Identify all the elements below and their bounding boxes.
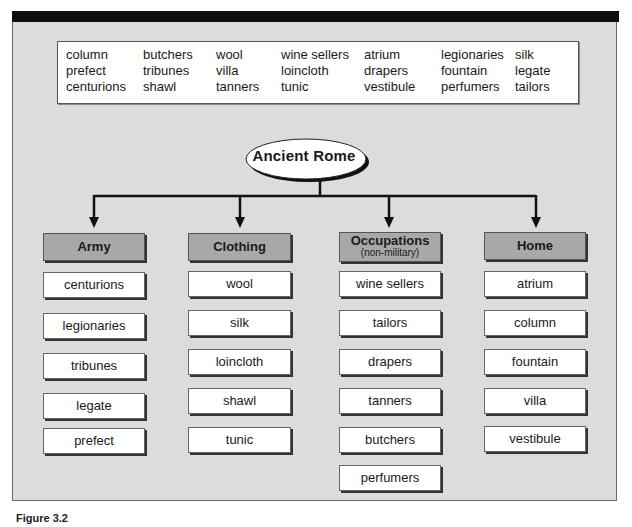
list-item: atrium — [484, 271, 586, 297]
list-item: fountain — [484, 349, 586, 375]
root-label: Ancient Rome — [242, 135, 366, 179]
list-item: wool — [188, 271, 291, 297]
arrow-down-icon — [235, 217, 245, 228]
list-item: villa — [484, 388, 586, 414]
list-item: tunic — [188, 427, 291, 453]
list-item: silk — [188, 310, 291, 336]
root-node: Ancient Rome — [245, 138, 369, 182]
list-item: butchers — [339, 427, 441, 453]
list-item: legate — [43, 393, 145, 419]
list-item: loincloth — [188, 349, 291, 375]
category-title: Home — [517, 238, 553, 253]
category-header-army: Army — [43, 233, 145, 261]
arrow-down-icon — [89, 217, 99, 228]
list-item: tanners — [339, 388, 441, 414]
list-item: wine sellers — [339, 271, 441, 297]
list-item: tailors — [339, 310, 441, 336]
category-title: Army — [77, 239, 110, 254]
figure-caption: Figure 3.2 — [16, 512, 68, 524]
category-title: Clothing — [213, 239, 266, 254]
arrow-down-icon — [531, 217, 541, 228]
list-item: perfumers — [339, 465, 441, 491]
list-item: shawl — [188, 388, 291, 414]
list-item: vestibule — [484, 426, 586, 452]
category-header-occupations: Occupations (non-military) — [339, 232, 441, 262]
list-item: centurions — [43, 272, 145, 298]
category-header-home: Home — [484, 232, 586, 260]
category-title: Occupations — [351, 233, 430, 248]
category-header-clothing: Clothing — [188, 233, 291, 261]
list-item: tribunes — [43, 353, 145, 379]
category-subtitle: (non-military) — [340, 247, 440, 258]
list-item: column — [484, 310, 586, 336]
list-item: legionaries — [43, 313, 145, 339]
list-item: drapers — [339, 349, 441, 375]
arrow-down-icon — [384, 217, 394, 228]
list-item: prefect — [43, 428, 145, 454]
